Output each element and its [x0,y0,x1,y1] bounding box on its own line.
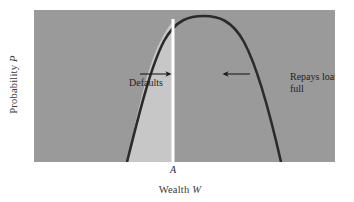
repays-annotation-label: Repays loan in full [290,71,335,94]
x-axis-tick-label-a: A [163,164,183,175]
x-axis-label-text: Wealth [159,184,190,195]
plot-panel: Defaults Repays loan in full [34,10,335,162]
probability-of-default-figure: ProbabilityP Defaults Repays loan in [0,0,354,202]
y-axis-label-text: Probability [8,65,19,114]
x-axis-label-variable: W [192,184,201,195]
x-axis-label: WealthW [120,184,240,195]
default-region-shading [127,22,173,162]
y-axis-label: ProbabilityP [8,25,19,145]
y-axis-label-variable: P [8,55,19,62]
repays-arrow [223,71,251,76]
defaults-annotation-label: Defaults [129,77,163,89]
